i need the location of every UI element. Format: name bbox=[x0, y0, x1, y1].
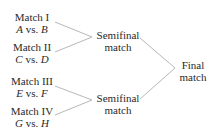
final-line1: Final bbox=[177, 59, 209, 71]
team-e: E bbox=[16, 87, 23, 99]
connector-match4-semi2 bbox=[55, 100, 92, 115]
match-4-teams: G vs. H bbox=[12, 117, 52, 129]
team-h: H bbox=[41, 117, 49, 129]
team-d: D bbox=[41, 53, 49, 65]
match-1-teams: A vs. B bbox=[12, 23, 52, 35]
vs-label: vs. bbox=[26, 117, 39, 129]
semifinal-2-line2: match bbox=[93, 104, 143, 116]
connector-semi2-final bbox=[140, 68, 175, 99]
vs-label: vs. bbox=[25, 53, 38, 65]
team-b: B bbox=[41, 23, 48, 35]
connector-match2-semi1 bbox=[55, 37, 92, 52]
final-match: Final match bbox=[177, 59, 209, 83]
team-c: C bbox=[15, 53, 22, 65]
connector-match1-semi1 bbox=[55, 22, 92, 37]
match-2-teams: C vs. D bbox=[12, 53, 52, 65]
semifinal-1-line2: match bbox=[93, 41, 143, 53]
semifinal-2: Semifinal match bbox=[93, 92, 143, 116]
vs-label: vs. bbox=[26, 87, 39, 99]
match-1-title: Match I bbox=[12, 11, 52, 23]
match-2-title: Match II bbox=[12, 41, 52, 53]
connector-semi1-final bbox=[140, 38, 175, 68]
team-f: F bbox=[41, 87, 48, 99]
team-g: G bbox=[15, 117, 23, 129]
semifinal-1-line1: Semifinal bbox=[93, 29, 143, 41]
connector-match3-semi2 bbox=[55, 86, 92, 100]
final-line2: match bbox=[177, 71, 209, 83]
semifinal-2-line1: Semifinal bbox=[93, 92, 143, 104]
semifinal-1: Semifinal match bbox=[93, 29, 143, 53]
match-3-teams: E vs. F bbox=[12, 87, 52, 99]
match-4-title: Match IV bbox=[10, 105, 54, 117]
vs-label: vs. bbox=[26, 23, 39, 35]
match-3-title: Match III bbox=[10, 75, 54, 87]
team-a: A bbox=[16, 23, 23, 35]
